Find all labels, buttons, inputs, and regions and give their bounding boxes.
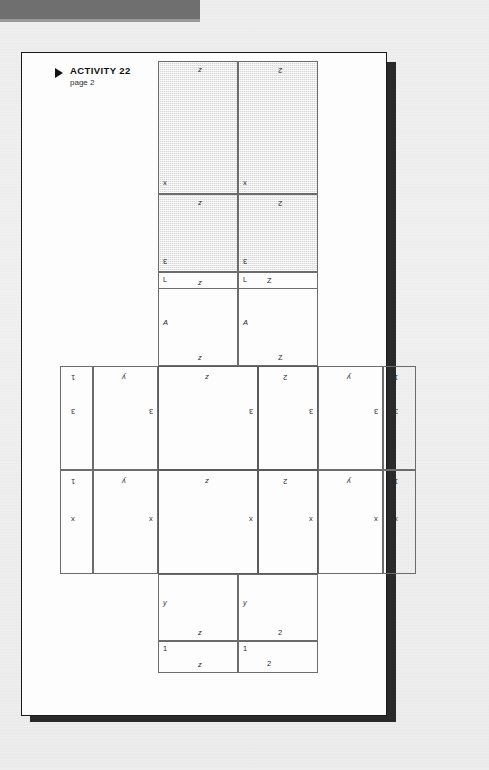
net-cell-right-narrow-bottom: x 1 <box>383 470 416 574</box>
cell-label-bottom: 1 <box>394 477 398 485</box>
cell-label-bottom: 1 <box>394 373 398 381</box>
net-cell-right-narrow-top: 3 1 <box>383 366 416 470</box>
net-cell-right-wide-bottom: x y <box>318 470 383 574</box>
worksheet-page: ACTIVITY 22 page 2 x z x 2 3 z 3 2 L z L… <box>21 52 387 716</box>
cell-label-bottom: z <box>198 279 202 287</box>
net-cell-top-upper-right: x 2 <box>238 61 318 194</box>
net-cell-band-thin-upper-right: L Z <box>238 272 318 289</box>
cell-label-left: A <box>163 319 168 327</box>
net-cell-center-top-right: 3 2 <box>258 366 318 470</box>
cell-label-bottom: 2 <box>278 629 282 637</box>
cell-label-left: 3 <box>149 407 153 415</box>
cell-label-left: x <box>71 515 75 523</box>
cell-label-left: x <box>394 515 398 523</box>
cell-label-left: 3 <box>71 407 75 415</box>
cell-label-left: x <box>243 179 247 187</box>
cell-label-bottom: 2 <box>267 660 271 668</box>
net-cell-center-bottom-right: x 2 <box>258 470 318 574</box>
net-cell-left-narrow-top: 3 1 <box>60 366 93 470</box>
box-net-diagram: x z x 2 3 z 3 2 L z L Z A z A <box>22 53 388 717</box>
cell-label-left: x <box>149 515 153 523</box>
cell-label-bottom: 2 <box>283 477 287 485</box>
cell-label-left: 3 <box>163 257 167 265</box>
net-cell-band-thin-upper-left: L z <box>158 272 238 289</box>
net-cell-top-lower-left: 3 z <box>158 194 238 272</box>
header-band <box>0 0 200 19</box>
cell-label-left: 3 <box>309 407 313 415</box>
cell-label-left: L <box>243 276 247 284</box>
cell-label-left: 3 <box>243 257 247 265</box>
cell-label-left: y <box>243 599 247 607</box>
net-cell-band-tall-upper-right: A Z <box>238 288 318 366</box>
cell-label-bottom: 2 <box>283 373 287 381</box>
net-cell-band-tall-lower-right: y 2 <box>238 574 318 641</box>
cell-label-bottom: z <box>205 373 209 381</box>
net-cell-center-top-left: 3 z <box>158 366 258 470</box>
cell-label-left: L <box>163 276 167 284</box>
cell-label-bottom: y <box>347 373 351 381</box>
header-band-edge <box>0 19 200 22</box>
net-cell-band-tall-lower-left: y z <box>158 574 238 641</box>
cell-label-bottom: z <box>198 661 202 669</box>
cell-label-left: A <box>243 319 248 327</box>
cell-label-bottom: 1 <box>71 477 75 485</box>
cell-label-bottom: 2 <box>278 66 282 74</box>
cell-label-left: 1 <box>243 645 247 653</box>
net-cell-band-tall-upper-left: A z <box>158 288 238 366</box>
cell-label-bottom: z <box>198 199 202 207</box>
cell-label-left: 3 <box>249 407 253 415</box>
cell-label-bottom: y <box>122 477 126 485</box>
cell-label-bottom: Z <box>278 354 283 362</box>
cell-label-bottom: y <box>122 373 126 381</box>
cell-label-bottom: y <box>347 477 351 485</box>
cell-label-bottom: z <box>205 477 209 485</box>
net-cell-top-lower-right: 3 2 <box>238 194 318 272</box>
cell-label-bottom: 1 <box>71 373 75 381</box>
net-cell-right-wide-top: 3 y <box>318 366 383 470</box>
net-cell-band-thin-lower-left: 1 z <box>158 641 238 673</box>
cell-label-left: 3 <box>374 407 378 415</box>
cell-label-left: y <box>163 599 167 607</box>
cell-label-left: x <box>163 179 167 187</box>
cell-label-left: 3 <box>394 407 398 415</box>
net-cell-left-wide-bottom: x y <box>93 470 158 574</box>
net-cell-center-bottom-left: x z <box>158 470 258 574</box>
cell-label-left: 1 <box>163 645 167 653</box>
net-cell-left-narrow-bottom: x 1 <box>60 470 93 574</box>
cell-label-bottom: z <box>198 66 202 74</box>
net-cell-top-upper-left: x z <box>158 61 238 194</box>
cell-label-bottom: z <box>198 354 202 362</box>
cell-label-left: x <box>309 515 313 523</box>
net-cell-band-thin-lower-right: 1 2 <box>238 641 318 673</box>
cell-label-bottom: z <box>198 629 202 637</box>
cell-label-bottom: 2 <box>278 199 282 207</box>
net-cell-left-wide-top: 3 y <box>93 366 158 470</box>
cell-label-bottom: Z <box>267 277 272 285</box>
cell-label-left: x <box>249 515 253 523</box>
cell-label-left: x <box>374 515 378 523</box>
